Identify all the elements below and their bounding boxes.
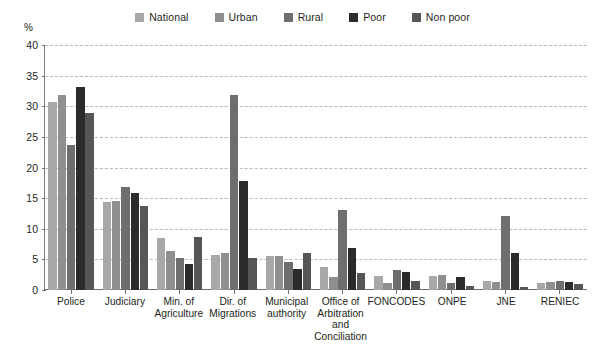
x-tick-label: Police [44, 296, 98, 342]
bar[interactable] [357, 273, 365, 290]
bar[interactable] [103, 202, 111, 290]
bar[interactable] [492, 282, 500, 290]
bar[interactable] [112, 201, 120, 290]
x-tick-label: Municipal authority [260, 296, 314, 342]
bar[interactable] [58, 95, 66, 290]
bar[interactable] [520, 287, 528, 290]
x-tick-mark [179, 290, 180, 294]
bar[interactable] [374, 276, 382, 290]
bar[interactable] [456, 277, 464, 290]
bar[interactable] [140, 206, 148, 290]
x-tick-label: JNE [479, 296, 533, 342]
x-tick-mark [342, 290, 343, 294]
bar[interactable] [48, 102, 56, 290]
bar[interactable] [348, 248, 356, 290]
legend-item-national[interactable]: National [135, 12, 188, 23]
x-tick-label: Dir. of Migrations [206, 296, 260, 342]
bar[interactable] [194, 237, 202, 290]
bar[interactable] [239, 181, 247, 290]
x-tick-mark [125, 290, 126, 294]
bar-group [261, 45, 315, 290]
bar[interactable] [211, 255, 219, 290]
x-axis-tick-labels: PoliceJudiciaryMin. of AgricultureDir. o… [44, 296, 587, 342]
legend-item-urban[interactable]: Urban [215, 12, 258, 23]
bar[interactable] [338, 210, 346, 290]
bar[interactable] [546, 282, 554, 290]
bar[interactable] [411, 281, 419, 290]
bar[interactable] [221, 253, 229, 290]
bar[interactable] [393, 270, 401, 290]
bar[interactable] [67, 145, 75, 290]
bar[interactable] [447, 283, 455, 290]
legend-label: Urban [229, 12, 258, 23]
x-tick-mark [288, 290, 289, 294]
bar-group [153, 45, 207, 290]
bar-group [44, 45, 98, 290]
bar[interactable] [85, 113, 93, 290]
y-axis-tick-marks [0, 45, 46, 290]
y-tick-mark [42, 290, 46, 291]
bar-group [98, 45, 152, 290]
bar[interactable] [303, 253, 311, 290]
bar-series-container [44, 45, 587, 290]
bar-group [207, 45, 261, 290]
bar[interactable] [574, 284, 582, 290]
bar[interactable] [185, 264, 193, 290]
x-tick-label: Office of Arbitration and Conciliation [314, 296, 368, 342]
bar[interactable] [402, 272, 410, 290]
bar[interactable] [293, 269, 301, 290]
legend-label: Rural [298, 12, 324, 23]
x-tick-mark [559, 290, 560, 294]
bar[interactable] [483, 281, 491, 290]
bar[interactable] [438, 275, 446, 290]
bar[interactable] [329, 277, 337, 290]
bar[interactable] [466, 286, 474, 290]
x-tick-label: Judiciary [98, 296, 152, 342]
x-tick-mark [234, 290, 235, 294]
bar[interactable] [166, 251, 174, 290]
bar[interactable] [320, 267, 328, 290]
bar[interactable] [275, 256, 283, 290]
bar[interactable] [230, 95, 238, 290]
bar-group [424, 45, 478, 290]
legend-swatch-icon [215, 13, 224, 22]
bar[interactable] [284, 262, 292, 290]
legend-swatch-icon [135, 13, 144, 22]
x-tick-label: FONCODES [368, 296, 426, 342]
bar[interactable] [429, 276, 437, 290]
x-tick-mark [505, 290, 506, 294]
bar[interactable] [501, 216, 509, 290]
legend-item-rural[interactable]: Rural [284, 12, 324, 23]
x-tick-label: RENIEC [533, 296, 587, 342]
bar[interactable] [556, 281, 564, 290]
bar[interactable] [76, 87, 84, 290]
bar[interactable] [511, 253, 519, 290]
bar[interactable] [537, 283, 545, 290]
legend-item-poor[interactable]: Poor [349, 12, 386, 23]
bar[interactable] [157, 238, 165, 290]
legend-label: Non poor [426, 12, 470, 23]
bar[interactable] [565, 282, 573, 290]
bar-chart: NationalUrbanRuralPoorNon poor % 0510152… [0, 0, 605, 348]
legend-swatch-icon [349, 13, 358, 22]
legend-swatch-icon [284, 13, 293, 22]
bar-group [478, 45, 532, 290]
bar[interactable] [266, 256, 274, 290]
legend-label: Poor [363, 12, 386, 23]
bar[interactable] [131, 193, 139, 290]
bar[interactable] [176, 258, 184, 290]
x-tick-mark [451, 290, 452, 294]
legend-item-non-poor[interactable]: Non poor [412, 12, 470, 23]
bar[interactable] [248, 258, 256, 290]
bar[interactable] [383, 283, 391, 290]
bar[interactable] [121, 187, 129, 291]
x-tick-mark [71, 290, 72, 294]
bar-group [315, 45, 369, 290]
x-tick-label: Min. of Agriculture [152, 296, 206, 342]
chart-legend: NationalUrbanRuralPoorNon poor [0, 9, 605, 25]
y-axis-unit-label: % [24, 22, 33, 33]
legend-swatch-icon [412, 13, 421, 22]
x-tick-mark [396, 290, 397, 294]
bar-group [533, 45, 587, 290]
bar-group [370, 45, 424, 290]
